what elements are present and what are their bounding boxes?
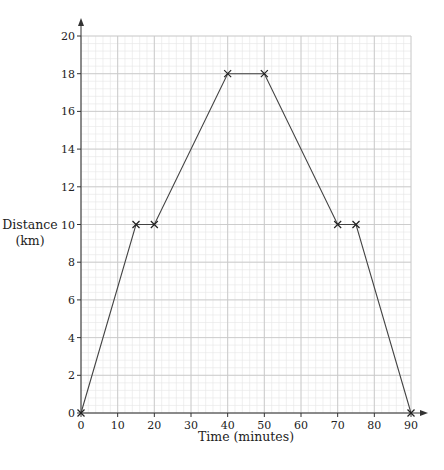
x-tick-label: 0	[78, 419, 85, 432]
y-tick-label: 16	[61, 105, 75, 118]
data-series	[78, 70, 415, 416]
y-tick-label: 10	[61, 219, 75, 232]
series-line	[81, 74, 411, 413]
x-tick-label: 30	[184, 419, 198, 432]
y-tick-label: 14	[61, 143, 75, 156]
x-tick-label: 70	[331, 419, 345, 432]
y-axis-label-line1: Distance	[2, 217, 57, 232]
y-axis-arrow-icon	[78, 18, 84, 26]
x-tick-label: 20	[147, 419, 161, 432]
y-tick-label: 8	[68, 256, 75, 269]
y-tick-label: 0	[68, 407, 75, 420]
y-tick-label: 6	[68, 294, 75, 307]
x-tick-label: 90	[404, 419, 418, 432]
x-axis-arrow-icon	[420, 410, 428, 416]
x-tick-label: 10	[111, 419, 125, 432]
y-tick-label: 20	[61, 30, 75, 43]
x-tick-label: 80	[367, 419, 381, 432]
y-tick-label: 2	[68, 369, 75, 382]
y-tick-label: 18	[61, 68, 75, 81]
y-tick-label: 12	[61, 181, 75, 194]
axis-labels: Time (minutes) Distance (km)	[2, 217, 294, 444]
distance-time-graph: 010203040506070809002468101214161820 Tim…	[0, 0, 444, 470]
major-grid	[81, 36, 411, 413]
x-tick-label: 60	[294, 419, 308, 432]
tick-labels: 010203040506070809002468101214161820	[61, 30, 418, 432]
x-axis-label: Time (minutes)	[198, 429, 294, 444]
y-axis-label-line2: (km)	[15, 233, 44, 248]
y-tick-label: 4	[68, 332, 75, 345]
